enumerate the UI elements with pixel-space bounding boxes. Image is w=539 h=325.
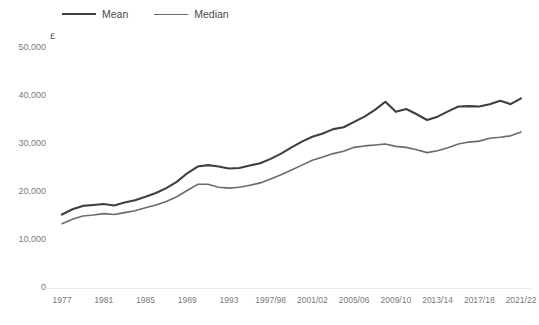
plot-area <box>0 0 539 325</box>
median-line <box>62 132 521 224</box>
mean-line <box>62 98 521 214</box>
chart-container: Mean Median £ 010,00020,00030,00040,0005… <box>0 0 539 325</box>
